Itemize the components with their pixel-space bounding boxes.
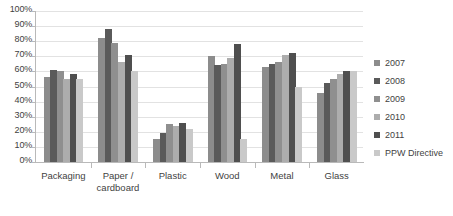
legend-label: 2010 [385, 112, 405, 122]
bar [240, 139, 247, 162]
bar-group [44, 11, 83, 162]
x-axis-tick [145, 162, 146, 168]
legend-item[interactable]: 2010 [374, 108, 453, 126]
plot-area: 0%10%20%30%40%50%60%70%80%90%100% Packag… [0, 0, 372, 216]
bar [350, 71, 357, 162]
x-category-label-line: Metal [270, 170, 293, 181]
y-tick-label: 50% [0, 81, 32, 90]
x-category-label: Glass [309, 170, 364, 182]
x-category-label-line: Wood [215, 170, 240, 181]
x-category-label-line: Packaging [41, 170, 85, 181]
legend-swatch-icon [374, 150, 380, 156]
legend-swatch-icon [374, 78, 380, 84]
x-axis-category-labels: PackagingPaper /cardboardPlasticWoodMeta… [36, 170, 364, 210]
x-category-label-line: Paper / [103, 170, 134, 181]
bar-group [98, 11, 137, 162]
legend-label: PPW Directive [385, 148, 443, 158]
bar-chart: 0%10%20%30%40%50%60%70%80%90%100% Packag… [0, 0, 453, 216]
x-axis-tick [91, 162, 92, 168]
x-category-label-line: Plastic [159, 170, 187, 181]
legend-item[interactable]: 2009 [374, 90, 453, 108]
legend-swatch-icon [374, 96, 380, 102]
y-tick-label: 60% [0, 65, 32, 74]
x-category-label: Packaging [36, 170, 91, 182]
x-category-label: Paper /cardboard [91, 170, 146, 194]
x-category-label: Metal [255, 170, 310, 182]
y-tick-label: 70% [0, 50, 32, 59]
legend-label: 2008 [385, 76, 405, 86]
x-axis-tick [200, 162, 201, 168]
legend-swatch-icon [374, 60, 380, 66]
y-tick-label: 20% [0, 126, 32, 135]
y-tick-label: 30% [0, 111, 32, 120]
x-category-label-line: Glass [325, 170, 349, 181]
category-separators [36, 162, 364, 168]
legend-swatch-icon [374, 132, 380, 138]
legend-item[interactable]: PPW Directive [374, 144, 453, 162]
y-axis-tick-labels: 0%10%20%30%40%50%60%70%80%90%100% [0, 6, 32, 162]
legend-item[interactable]: 2007 [374, 54, 453, 72]
y-tick-label: 100% [0, 5, 32, 14]
y-tick-label: 80% [0, 35, 32, 44]
bar [186, 129, 193, 162]
bar-group [153, 11, 192, 162]
legend-item[interactable]: 2011 [374, 126, 453, 144]
legend-item[interactable]: 2008 [374, 72, 453, 90]
x-category-label-line: cardboard [91, 182, 146, 194]
bar-group [317, 11, 356, 162]
x-axis-tick [255, 162, 256, 168]
legend-label: 2011 [385, 130, 404, 140]
bar-series-layer [36, 11, 364, 162]
x-axis-tick [309, 162, 310, 168]
x-category-label: Plastic [145, 170, 200, 182]
x-category-label: Wood [200, 170, 255, 182]
y-tick-label: 40% [0, 96, 32, 105]
y-tick-label: 10% [0, 141, 32, 150]
legend-swatch-icon [374, 114, 380, 120]
chart-legend: 20072008200920102011PPW Directive [374, 54, 453, 162]
bar [76, 79, 83, 162]
legend-label: 2009 [385, 94, 405, 104]
bar-group [208, 11, 247, 162]
bar [131, 71, 138, 162]
legend-label: 2007 [385, 58, 405, 68]
y-tick-label: 90% [0, 20, 32, 29]
y-tick-label: 0% [0, 156, 32, 165]
bar-group [262, 11, 301, 162]
bar [295, 87, 302, 163]
